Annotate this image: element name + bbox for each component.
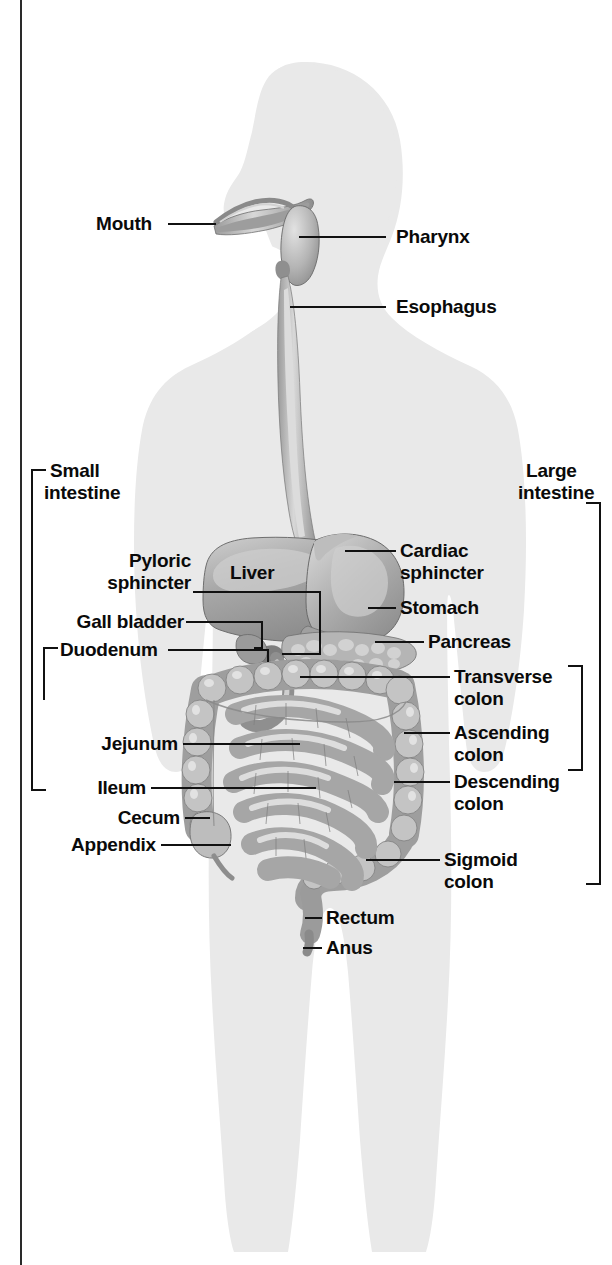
label-anus: Anus — [326, 937, 373, 959]
label-descending-2: colon — [454, 793, 504, 815]
label-jejunum: Jejunum — [26, 733, 178, 755]
label-pyloric-2: sphincter — [26, 572, 191, 594]
digestive-system-figure: Mouth Pharynx Esophagus Small intestine … — [0, 0, 612, 1265]
anatomy-artwork — [0, 0, 612, 1265]
label-ileum: Ileum — [26, 777, 146, 799]
label-sigmoid-2: colon — [444, 871, 494, 893]
label-gall-bladder: Gall bladder — [26, 611, 184, 633]
label-duodenum: Duodenum — [60, 639, 158, 661]
label-cardiac-2: sphincter — [400, 562, 484, 584]
label-small-intestine-2: intestine — [44, 482, 120, 504]
label-appendix: Appendix — [26, 834, 156, 856]
label-pyloric-1: Pyloric — [26, 550, 191, 572]
label-mouth: Mouth — [96, 213, 152, 235]
label-transverse-2: colon — [454, 688, 504, 710]
label-pharynx: Pharynx — [396, 226, 470, 248]
label-sigmoid-1: Sigmoid — [444, 849, 518, 871]
label-cardiac-1: Cardiac — [400, 540, 468, 562]
label-cecum: Cecum — [26, 807, 180, 829]
label-esophagus: Esophagus — [396, 296, 497, 318]
label-pancreas: Pancreas — [428, 631, 511, 653]
bracket-large-intestine — [586, 503, 600, 884]
label-rectum: Rectum — [326, 907, 394, 929]
label-ascending-2: colon — [454, 744, 504, 766]
label-small-intestine-1: Small — [50, 460, 100, 482]
label-liver: Liver — [230, 562, 274, 584]
bracket-colon-group — [568, 666, 582, 770]
label-descending-1: Descending — [454, 771, 560, 793]
label-large-intestine-1: Large — [526, 460, 577, 482]
label-transverse-1: Transverse — [454, 666, 552, 688]
label-stomach: Stomach — [400, 597, 479, 619]
label-ascending-1: Ascending — [454, 722, 549, 744]
label-large-intestine-2: intestine — [518, 482, 594, 504]
bracket-duodenum — [44, 648, 58, 700]
